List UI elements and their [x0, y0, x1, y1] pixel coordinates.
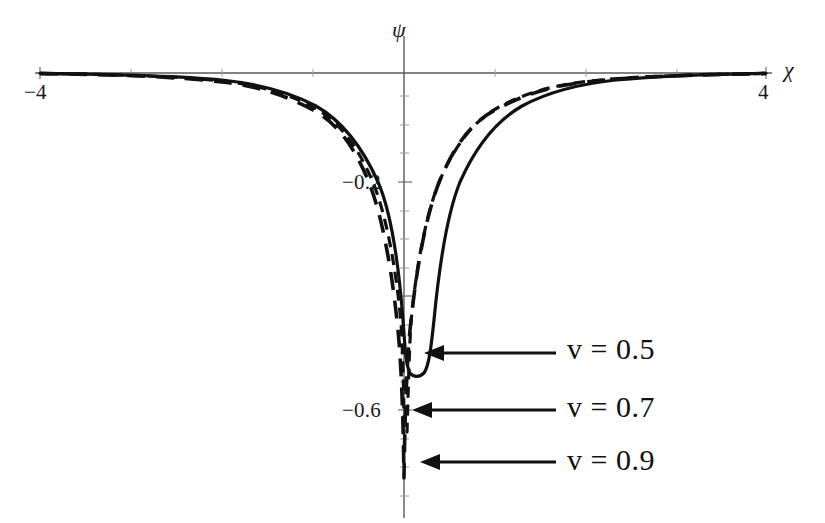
arrowhead-v07 [412, 402, 432, 418]
annotation-arrow-v09 [420, 454, 556, 470]
y-axis-label: ψ [392, 17, 406, 43]
plot-canvas [0, 0, 825, 523]
y-tick-label-minus06: −0.6 [342, 398, 381, 423]
y-tick-label-minus02: −0.2 [342, 170, 381, 195]
series-label-v05: v = 0.5 [567, 332, 655, 366]
annotation-arrow-v07 [412, 402, 556, 418]
arrowhead-v05 [424, 345, 444, 361]
figure-container: ψ χ −4 4 −0.2 −0.6 v = 0.5 v = 0.7 v = 0… [0, 0, 825, 523]
curve-v05 [40, 73, 766, 376]
x-axis-label: χ [784, 57, 794, 83]
series-label-v09: v = 0.9 [567, 443, 655, 477]
x-tick-label-4: 4 [758, 80, 769, 105]
x-tick-label-minus4: −4 [24, 80, 47, 105]
curve-v07 [40, 73, 766, 432]
arrowhead-v09 [420, 454, 440, 470]
series-label-v07: v = 0.7 [567, 390, 655, 424]
annotation-arrow-v05 [424, 345, 556, 361]
